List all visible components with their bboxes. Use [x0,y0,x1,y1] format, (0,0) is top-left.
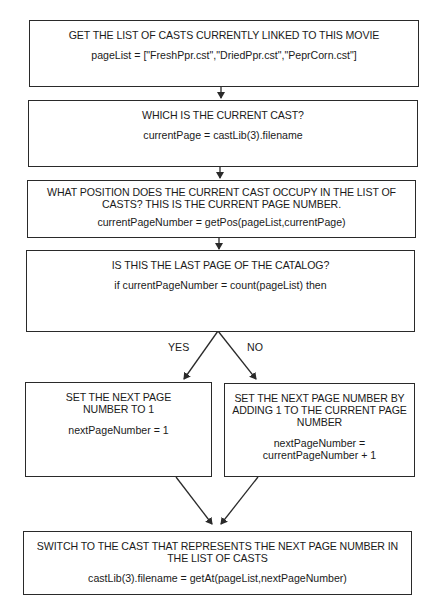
arrow-no-to-final [221,477,258,524]
decision-heading: IS THIS THE LAST PAGE OF THE CATALOG? [27,259,414,271]
final-heading: SWITCH TO THE CAST THAT REPRESENTS THE N… [24,540,411,564]
step-code: pageList = ["FreshPpr.cst","DriedPpr.cst… [30,49,418,61]
step-get-cast-list: GET THE LIST OF CASTS CURRENTLY LINKED T… [29,20,419,87]
step-switch-cast: SWITCH TO THE CAST THAT REPRESENTS THE N… [23,531,412,595]
step-code: currentPageNumber = getPos(pageList,curr… [28,216,415,228]
arrow-yes-branch [184,331,218,379]
branch-heading: SET THE NEXT PAGE NUMBER TO 1 [26,391,211,415]
arrow-yes-to-final [176,477,212,524]
branch-heading: SET THE NEXT PAGE NUMBER BY ADDING 1 TO … [225,392,414,428]
step-heading: WHAT POSITION DOES THE CURRENT CAST OCCU… [28,186,415,210]
arrow-no-branch [218,331,256,379]
branch-code: nextPageNumber = 1 [26,424,211,436]
no-label: NO [247,341,263,353]
decision-last-page: IS THIS THE LAST PAGE OF THE CATALOG? if… [26,250,415,332]
step-heading: GET THE LIST OF CASTS CURRENTLY LINKED T… [30,29,418,41]
final-code: castLib(3).filename = getAt(pageList,nex… [24,572,411,584]
step-code: currentPage = castLib(3).filename [29,129,417,141]
decision-code: if currentPageNumber = count(pageList) t… [27,279,414,291]
branch-code: nextPageNumber = currentPageNumber + 1 [225,437,414,461]
branch-no-increment-page: SET THE NEXT PAGE NUMBER BY ADDING 1 TO … [224,383,415,477]
step-current-cast: WHICH IS THE CURRENT CAST? currentPage =… [28,100,418,167]
branch-yes-reset-page: SET THE NEXT PAGE NUMBER TO 1 nextPageNu… [25,382,212,477]
step-heading: WHICH IS THE CURRENT CAST? [29,109,417,121]
yes-label: YES [168,341,189,353]
step-current-position: WHAT POSITION DOES THE CURRENT CAST OCCU… [27,180,416,238]
